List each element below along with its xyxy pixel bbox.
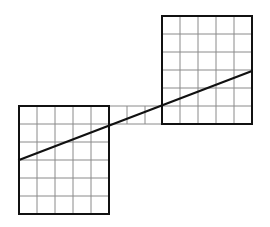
diagram-canvas [0,0,270,227]
diagonal-line [19,71,252,160]
grid-diagram [0,0,270,227]
